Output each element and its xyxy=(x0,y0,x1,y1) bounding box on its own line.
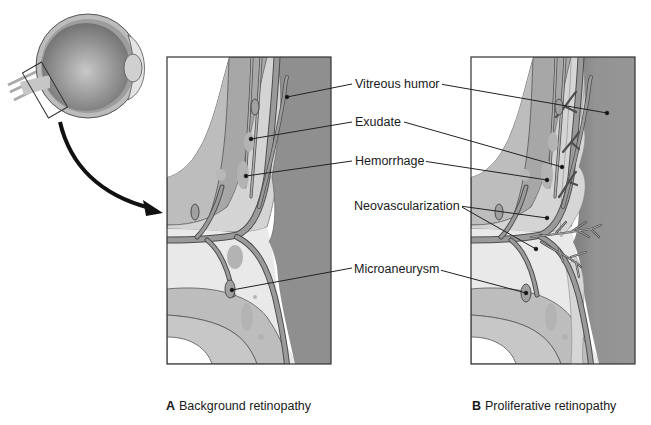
label-hemorrhage: Hemorrhage xyxy=(353,154,426,168)
panel-a xyxy=(167,57,331,364)
caption-panel-b-text: Proliferative retinopathy xyxy=(485,399,616,413)
caption-panel-b: BProliferative retinopathy xyxy=(472,399,616,413)
caption-panel-a-text: Background retinopathy xyxy=(179,399,311,413)
caption-panel-a: ABackground retinopathy xyxy=(166,399,311,413)
caption-panel-a-letter: A xyxy=(166,399,175,413)
retinopathy-diagram xyxy=(0,0,651,425)
eyeball-inset xyxy=(8,14,145,118)
zoom-arrow xyxy=(60,122,163,216)
label-vitreous-humor: Vitreous humor xyxy=(353,77,442,91)
label-neovascularization: Neovascularization xyxy=(352,199,462,213)
label-exudate: Exudate xyxy=(353,115,403,129)
caption-panel-b-letter: B xyxy=(472,399,481,413)
label-microaneurysm: Microaneurysm xyxy=(352,262,441,276)
